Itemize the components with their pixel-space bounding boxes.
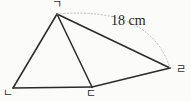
measurement-label-18cm: 18 cm xyxy=(111,14,146,28)
vertex-label-rieul: ㄹ xyxy=(176,64,186,75)
edge-giyeok-nieun xyxy=(13,14,57,88)
figure-canvas xyxy=(0,0,191,101)
vertex-label-giyeok: ㄱ xyxy=(52,0,62,10)
vertex-label-digeut: ㄷ xyxy=(86,88,96,99)
geometry-figure: ㄱ ㄴ ㄷ ㄹ 18 cm xyxy=(0,0,191,101)
vertex-label-nieun: ㄴ xyxy=(3,88,13,99)
solid-edge-group xyxy=(13,14,170,88)
edge-giyeok-digeut xyxy=(57,14,92,87)
edge-digeut-rieul xyxy=(92,68,170,87)
edge-nieun-digeut xyxy=(13,87,92,88)
